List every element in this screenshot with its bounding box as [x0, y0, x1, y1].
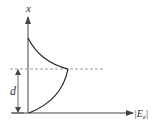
- y-axis-label: x: [25, 2, 31, 14]
- field-profile-diagram: x d |Ez|: [0, 0, 154, 133]
- dimension-label: d: [10, 84, 17, 98]
- x-axis-label: |Ez|: [134, 108, 148, 121]
- rising-curve: [29, 69, 68, 113]
- decay-curve: [28, 38, 68, 69]
